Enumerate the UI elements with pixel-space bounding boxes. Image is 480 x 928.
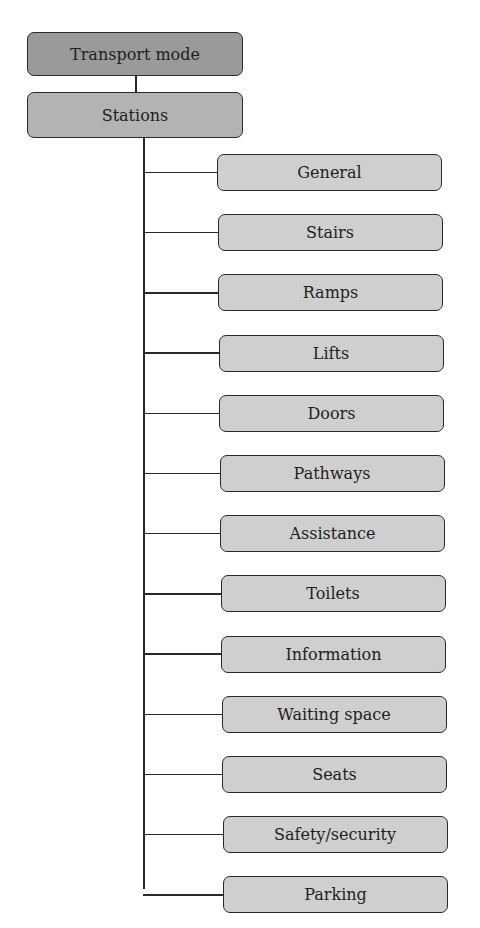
node-label: Waiting space <box>277 705 390 724</box>
node-assistance: Assistance <box>220 515 445 552</box>
node-transport-mode: Transport mode <box>27 32 243 76</box>
node-label: Assistance <box>289 524 375 543</box>
node-information: Information <box>221 636 446 673</box>
node-label: Stairs <box>306 223 354 242</box>
connector-line <box>143 533 220 535</box>
connector-line <box>143 413 219 415</box>
node-general: General <box>217 154 442 191</box>
node-doors: Doors <box>219 395 444 432</box>
node-waiting-space: Waiting space <box>222 696 447 733</box>
connector-line <box>143 774 222 776</box>
node-pathways: Pathways <box>220 455 445 492</box>
connector-line <box>143 714 222 716</box>
connector-line <box>143 232 218 234</box>
connector-line <box>143 172 217 174</box>
node-seats: Seats <box>222 756 447 793</box>
connector-line <box>143 473 220 475</box>
connector-line <box>143 834 223 836</box>
node-label: Seats <box>312 765 357 784</box>
node-label: Toilets <box>306 584 359 603</box>
node-label: Information <box>285 645 381 664</box>
node-label: Parking <box>304 885 367 904</box>
node-label: General <box>297 163 361 182</box>
node-toilets: Toilets <box>221 575 446 612</box>
node-safety-security: Safety/security <box>223 816 448 853</box>
connector-line <box>143 352 219 354</box>
node-label: Pathways <box>294 464 371 483</box>
connector-line <box>143 292 218 294</box>
connector-line <box>143 593 221 595</box>
node-label: Stations <box>102 106 169 125</box>
node-label: Lifts <box>313 344 349 363</box>
node-stairs: Stairs <box>218 214 443 251</box>
node-label: Ramps <box>303 283 359 302</box>
node-label: Transport mode <box>70 45 200 64</box>
node-lifts: Lifts <box>219 335 444 372</box>
node-ramps: Ramps <box>218 274 443 311</box>
node-label: Safety/security <box>274 825 396 844</box>
connector-line <box>143 653 221 655</box>
node-label: Doors <box>308 404 356 423</box>
connector-root-stations <box>135 76 137 92</box>
node-parking: Parking <box>223 876 448 913</box>
connector-line <box>143 894 223 896</box>
trunk-line <box>143 138 145 889</box>
node-stations: Stations <box>27 92 243 138</box>
